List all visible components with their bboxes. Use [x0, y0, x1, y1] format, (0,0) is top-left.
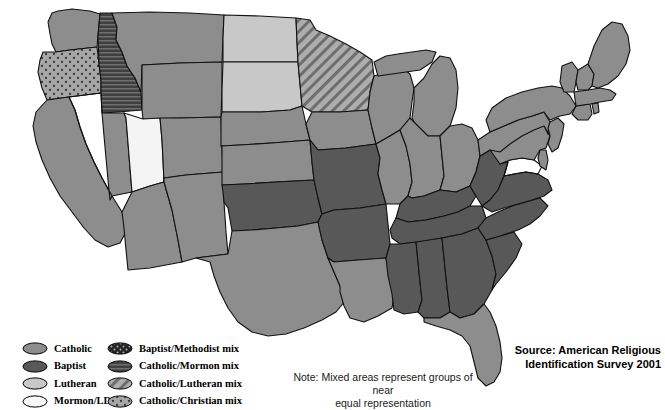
- state-mn: [296, 18, 374, 112]
- map-source-line2: Identification Survey 2001: [489, 357, 661, 371]
- legend-column-mixed: Baptist/Methodist mix Catholic/Mormon mi…: [107, 340, 242, 410]
- legend-item-catholic-christian-mix[interactable]: Catholic/Christian mix: [107, 393, 242, 410]
- state-or: [38, 47, 101, 100]
- legend-item-baptist[interactable]: Baptist: [22, 358, 117, 376]
- legend-label-catholic-lutheran-mix: Catholic/Lutheran mix: [139, 379, 242, 390]
- religion-map-figure: Catholic Baptist Lutheran Mormon/LDS: [0, 0, 665, 410]
- legend-swatch-catholic-christian-mix: [107, 395, 133, 408]
- map-source-line1: Source: American Religious: [489, 343, 661, 357]
- state-wy: [142, 62, 222, 119]
- state-sd: [222, 62, 302, 112]
- legend-item-lutheran[interactable]: Lutheran: [22, 375, 117, 393]
- legend-swatch-catholic-lutheran-mix: [107, 377, 133, 390]
- map-note-line2: equal representation: [283, 397, 483, 410]
- map-note-line1: Note: Mixed areas represent groups of ne…: [283, 371, 483, 397]
- legend-swatch-catholic-mormon-mix: [107, 360, 133, 373]
- legend-item-catholic-mormon-mix[interactable]: Catholic/Mormon mix: [107, 358, 242, 376]
- state-nj: [548, 118, 564, 152]
- state-mo: [310, 140, 386, 214]
- state-nd: [223, 15, 298, 62]
- state-ma: [574, 88, 616, 106]
- legend-label-baptist: Baptist: [54, 361, 86, 372]
- legend-swatch-lutheran: [22, 377, 48, 390]
- legend-swatch-catholic: [22, 342, 48, 355]
- map-source: Source: American Religious Identificatio…: [489, 343, 661, 371]
- legend-label-baptist-methodist-mix: Baptist/Methodist mix: [139, 344, 239, 355]
- state-mi-up: [374, 50, 436, 76]
- state-de: [538, 150, 548, 170]
- state-ok: [222, 180, 322, 231]
- state-wa: [48, 9, 100, 52]
- legend-swatch-baptist: [22, 360, 48, 373]
- legend-label-catholic-christian-mix: Catholic/Christian mix: [139, 396, 242, 407]
- legend-swatch-mormon-lds: [22, 395, 48, 408]
- legend-label-catholic-mormon-mix: Catholic/Mormon mix: [139, 361, 239, 372]
- state-ia: [306, 110, 376, 150]
- state-ri: [592, 103, 599, 114]
- state-me: [588, 22, 630, 88]
- legend-item-mormon-lds[interactable]: Mormon/LDS: [22, 393, 117, 410]
- legend-label-lutheran: Lutheran: [54, 379, 97, 390]
- state-vt: [560, 62, 578, 92]
- map-note: Note: Mixed areas represent groups of ne…: [283, 371, 483, 410]
- state-ar: [318, 204, 390, 262]
- legend-item-baptist-methodist-mix[interactable]: Baptist/Methodist mix: [107, 340, 242, 358]
- legend-label-catholic: Catholic: [54, 344, 92, 355]
- state-ne: [221, 106, 310, 146]
- legend-column-solid: Catholic Baptist Lutheran Mormon/LDS: [22, 340, 117, 410]
- state-ks: [221, 140, 314, 185]
- legend-swatch-baptist-methodist-mix: [107, 342, 133, 355]
- legend-item-catholic[interactable]: Catholic: [22, 340, 117, 358]
- legend-item-catholic-lutheran-mix[interactable]: Catholic/Lutheran mix: [107, 375, 242, 393]
- state-shapes: [33, 9, 630, 386]
- map-legend: Catholic Baptist Lutheran Mormon/LDS: [22, 340, 287, 410]
